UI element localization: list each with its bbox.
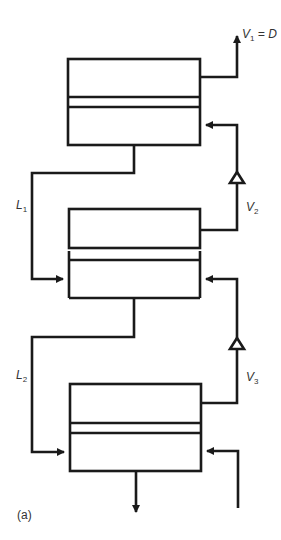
v3-flow-triangle-icon [230,338,244,349]
l2-liquid-stream [32,298,134,452]
v1-distillate-stream [200,36,237,77]
label-v2: V2 [246,200,259,216]
label-l1: L1 [16,198,28,214]
stage-1-box [68,59,200,145]
label-v3: V3 [246,370,259,386]
stage-2-box [69,209,200,298]
v3-vapor-stream [201,279,237,403]
bottom-vapor-feed [207,451,238,508]
label-v1-d: V1 = D [242,27,277,43]
label-l2: L2 [16,368,28,384]
staged-column-diagram: V1 = D V2 V3 L1 L2 (a) [0,0,281,540]
v2-vapor-stream [200,125,237,230]
stage-3-box [70,384,201,471]
panel-label: (a) [17,508,32,522]
v2-flow-triangle-icon [230,172,244,183]
